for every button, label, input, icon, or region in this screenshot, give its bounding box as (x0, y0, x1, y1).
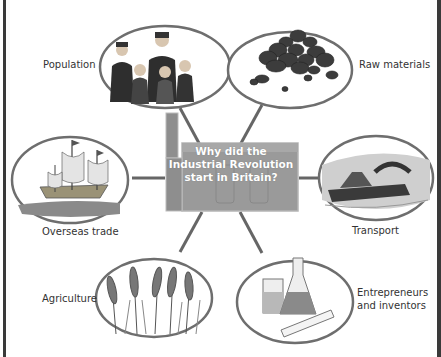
label-raw-materials: Raw materials (359, 58, 430, 71)
central-question-line-1: Why did the (163, 145, 299, 158)
central-question-line-3: start in Britain? (163, 171, 299, 184)
label-overseas-trade: Overseas trade (42, 225, 119, 238)
population-illustration[interactable] (100, 26, 230, 108)
label-transport: Transport (352, 224, 399, 237)
central-question-line-2: Industrial Revolution (163, 158, 299, 171)
label-entrepreneurs-line-2: and inventors (357, 299, 428, 312)
entrepreneurs-illustration[interactable] (237, 258, 353, 343)
label-entrepreneurs: Entrepreneurs and inventors (357, 286, 428, 312)
label-entrepreneurs-line-1: Entrepreneurs (357, 286, 428, 299)
raw-materials-illustration[interactable] (228, 30, 352, 108)
label-population: Population (43, 58, 96, 71)
central-question: Why did the Industrial Revolution start … (163, 145, 299, 184)
label-agriculture: Agriculture (42, 292, 97, 305)
agriculture-illustration[interactable] (96, 259, 212, 337)
overseas-trade-illustration[interactable] (12, 137, 128, 223)
transport-illustration[interactable] (319, 136, 433, 220)
canal-boat-icon (322, 154, 430, 209)
